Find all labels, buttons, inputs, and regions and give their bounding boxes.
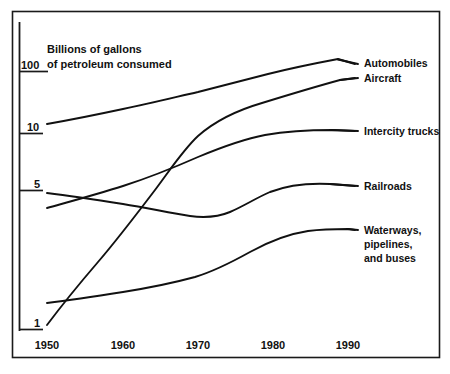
series-label-railroads: Railroads: [364, 180, 412, 192]
series-line-intercity-trucks: [47, 130, 355, 208]
x-tick-label-1990: 1990: [336, 339, 360, 351]
series-label-waterways-line-2: pipelines,: [364, 238, 413, 250]
x-tick-label-1970: 1970: [186, 339, 210, 351]
chart-figure: 100 10 5 1 Billions of gallons of petrol…: [0, 0, 450, 374]
leader-line-automobiles: [338, 60, 358, 65]
x-tick-label-1950: 1950: [35, 339, 59, 351]
y-tick-label-1: 1: [34, 317, 40, 329]
leader-line-waterways: [348, 229, 358, 230]
y-tick-label-5: 5: [34, 178, 40, 190]
axis-title-line-1: Billions of gallons: [47, 43, 142, 55]
axis-title-line-2: of petroleum consumed: [47, 58, 172, 70]
series-label-aircraft: Aircraft: [364, 72, 402, 84]
leader-line-intercity-trucks: [332, 130, 358, 131]
x-tick-label-1980: 1980: [261, 339, 285, 351]
leader-line-railroads: [330, 184, 358, 186]
series-line-waterways: [47, 229, 355, 303]
series-label-intercity-trucks: Intercity trucks: [364, 125, 439, 137]
series-label-automobiles: Automobiles: [364, 57, 428, 69]
y-tick-label-10: 10: [27, 121, 39, 133]
leader-line-aircraft: [340, 78, 358, 80]
series-label-waterways-line-3: and buses: [364, 252, 416, 264]
x-tick-label-1960: 1960: [111, 339, 135, 351]
series-line-railroads: [47, 184, 355, 217]
series-label-waterways-line-1: Waterways,: [364, 224, 421, 236]
line-chart: 100 10 5 1 Billions of gallons of petrol…: [0, 0, 450, 374]
y-tick-label-100: 100: [21, 59, 39, 71]
